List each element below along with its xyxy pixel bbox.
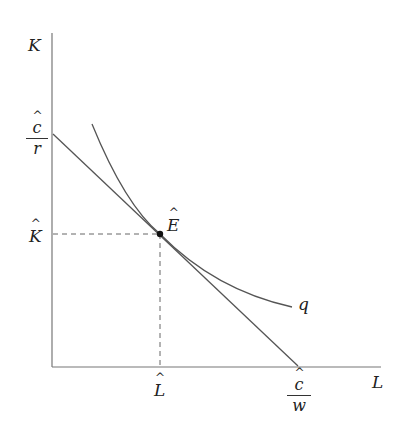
diagram-canvas xyxy=(0,0,407,440)
c-hat: c xyxy=(295,377,304,393)
y-axis-label: K xyxy=(28,37,41,54)
x-axis-label: L xyxy=(372,374,383,391)
isocost-line xyxy=(53,134,298,366)
l-hat-label: L xyxy=(154,382,165,399)
c-hat: c xyxy=(33,120,42,136)
isoquant-label: q xyxy=(298,296,309,313)
equilibrium-point xyxy=(157,231,163,237)
isoquant-curve xyxy=(92,124,292,307)
equilibrium-label: E xyxy=(167,217,179,234)
w-label: w xyxy=(287,398,311,414)
y-intercept-label: c r xyxy=(26,120,48,157)
k-hat-label: K xyxy=(29,228,42,245)
x-intercept-label: c w xyxy=(287,377,311,414)
r-label: r xyxy=(26,141,48,157)
